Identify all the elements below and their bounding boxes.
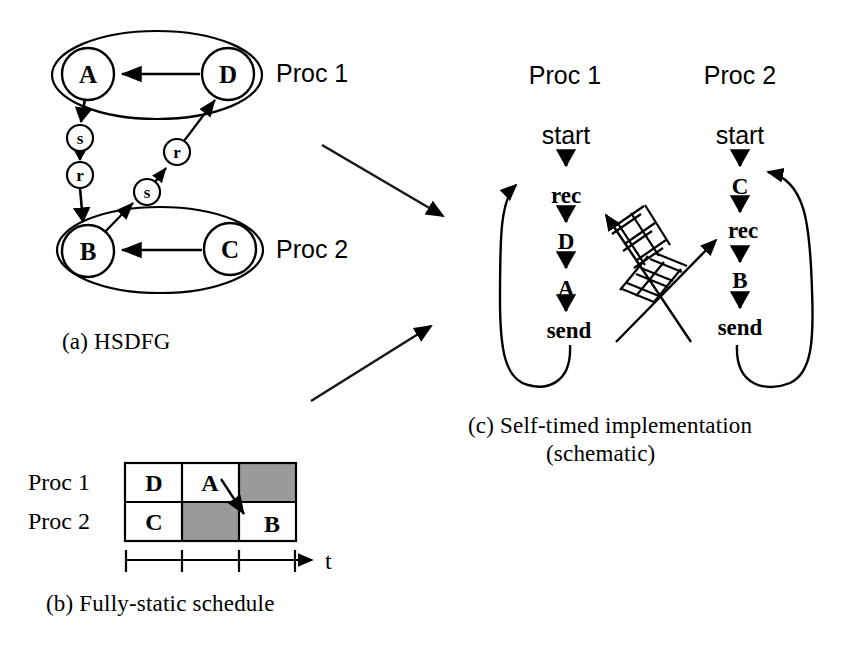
connector-b-to-c (311, 326, 431, 401)
p2-step-send: send (718, 316, 763, 339)
panel-a-proc2-tag: Proc 2 (276, 237, 348, 262)
node-c-label: C (221, 237, 239, 262)
p1-step-send: send (547, 319, 592, 342)
panel-c-proc1-title: Proc 1 (529, 63, 601, 88)
gantt-cell-p1-c3 (239, 463, 296, 502)
panel-a-proc1-tag: Proc 1 (276, 61, 348, 86)
p1-step-d: D (558, 230, 575, 253)
edge-a-to-s1 (81, 99, 85, 122)
gantt-row-label-proc1: Proc 1 (28, 470, 90, 494)
node-s2-label: s (144, 184, 151, 201)
panel-c-flow (500, 151, 813, 387)
gantt-cell-label-p1-c1: D (145, 471, 162, 495)
edge-r1-to-b (80, 188, 83, 222)
fifo-2-rungs (620, 253, 687, 302)
p1-step-rec: rec (551, 184, 581, 207)
fifo-channel-p1send-to-p2rec (616, 240, 716, 342)
p1-step-start: start (542, 123, 591, 148)
fifo-2-shaft (616, 240, 716, 342)
panel-connectors (311, 145, 443, 401)
p2-step-b: B (732, 269, 747, 292)
edge-r2-to-d (184, 100, 215, 141)
panel-c-caption-line1: (c) Self-timed implementation (468, 414, 752, 437)
p2-step-rec: rec (728, 219, 758, 242)
node-a-label: A (79, 62, 97, 87)
p2-feedback-loop (737, 172, 813, 387)
node-r2-label: r (173, 144, 181, 161)
panel-a-caption: (a) HSDFG (62, 330, 171, 353)
node-d-label: D (219, 62, 237, 87)
node-r1-label: r (76, 167, 84, 184)
edge-s2-to-r2 (155, 168, 166, 182)
node-s1-label: s (77, 130, 84, 147)
p2-step-c: C (732, 175, 749, 198)
connector-a-to-c (322, 145, 443, 216)
gantt-cell-label-p1-c2: A (201, 471, 218, 495)
gantt-cell-label-p2-c3: B (264, 512, 280, 536)
node-b-label: B (80, 239, 97, 264)
panel-c-caption-line2: (schematic) (546, 442, 655, 465)
time-axis-label: t (325, 549, 332, 573)
p1-step-a: A (558, 277, 575, 300)
gantt-cell-p2-c2 (182, 502, 239, 541)
gantt-cell-label-p2-c1: C (145, 510, 162, 534)
figure-root: A D B C s r s r Proc 1 Proc 2 (a) HSDFG … (0, 0, 847, 663)
p2-step-start: start (716, 123, 765, 148)
gantt-row-label-proc2: Proc 2 (28, 509, 90, 533)
panel-b-caption: (b) Fully-static schedule (46, 592, 275, 615)
panel-c-proc2-title: Proc 2 (704, 63, 776, 88)
